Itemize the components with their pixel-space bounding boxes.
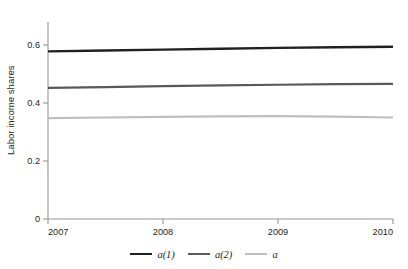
legend-label-a1: a(1) (157, 249, 175, 260)
legend-swatch-a1 (130, 253, 152, 256)
x-tick-label-2008: 2008 (153, 227, 173, 237)
x-axis-ticks (48, 219, 393, 224)
y-axis-ticks (43, 45, 48, 219)
series-group (48, 47, 393, 118)
chart-legend: a(1) a(2) a (0, 246, 408, 262)
x-tick-label-2007: 2007 (48, 227, 68, 237)
legend-item-a[interactable]: a (245, 249, 277, 260)
figure-panel: 0.6 0.4 0.2 0 2007 2008 2009 2010 Labor … (0, 0, 408, 269)
series-line-a2 (48, 84, 393, 88)
legend-item-a2[interactable]: a(2) (188, 249, 233, 260)
legend-swatch-a (245, 253, 267, 256)
series-line-a (48, 116, 393, 118)
legend-item-a1[interactable]: a(1) (130, 249, 175, 260)
series-line-a1 (48, 47, 393, 52)
legend-swatch-a2 (188, 253, 210, 256)
y-tick-label-0.2: 0.2 (27, 156, 40, 166)
plot-area: 0.6 0.4 0.2 0 2007 2008 2009 2010 Labor … (0, 0, 408, 240)
legend-label-a: a (272, 249, 277, 260)
legend-label-a2: a(2) (215, 249, 233, 260)
y-tick-label-0.6: 0.6 (27, 40, 40, 50)
x-tick-label-2009: 2009 (268, 227, 288, 237)
y-tick-label-0.4: 0.4 (27, 98, 40, 108)
y-tick-label-0: 0 (35, 214, 40, 224)
x-tick-label-2010: 2010 (373, 227, 393, 237)
line-chart-svg: 0.6 0.4 0.2 0 2007 2008 2009 2010 Labor … (0, 0, 408, 240)
y-axis-title: Labor income shares (5, 65, 16, 155)
